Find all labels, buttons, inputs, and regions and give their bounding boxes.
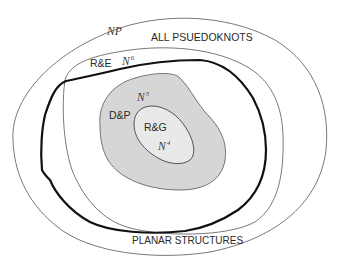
np-label: NP [107, 26, 122, 38]
rg-label: R&G [144, 122, 167, 133]
n4-label: N4 [158, 140, 170, 153]
pseudoknot-class-diagram: NP ALL PSUEDOKNOTS R&E N6 N5 D&P R&G N4 … [0, 0, 337, 263]
n6-label: N6 [122, 55, 134, 68]
re-label: R&E [90, 58, 112, 69]
dp-label: D&P [109, 110, 131, 121]
all-pseudoknots-label: ALL PSUEDOKNOTS [151, 32, 253, 43]
planar-structures-label: PLANAR STRUCTURES [132, 236, 243, 246]
n5-label: N5 [137, 91, 149, 104]
